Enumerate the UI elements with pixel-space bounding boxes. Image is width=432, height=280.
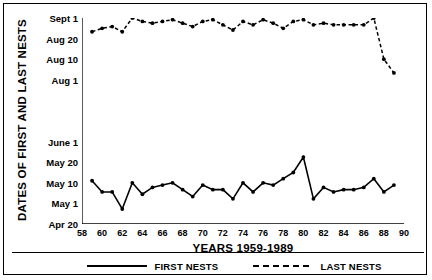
data-point [261,181,265,185]
x-tick-label: 68 [178,228,188,238]
y-axis-tick-labels: Apr 20May 1May 10May 20June 1Aug 1Aug 10… [4,18,78,224]
data-point [221,23,225,27]
data-point [322,185,326,189]
data-point [392,71,396,75]
data-point [90,179,94,183]
legend-divider [12,252,424,253]
x-tick-label: 66 [157,228,167,238]
data-point [251,190,255,194]
data-point [291,20,295,24]
y-tick-label: June 1 [48,136,78,147]
data-point [291,171,295,175]
data-point [362,185,366,189]
y-tick-label: Aug 1 [52,74,78,85]
legend-swatch-dashed [252,261,314,271]
x-tick-label: 84 [339,228,349,238]
plot-area [82,18,404,224]
y-tick-label: Sept 1 [49,13,78,24]
legend-item-first-nests: FIRST NESTS [86,261,218,272]
data-point [181,21,185,25]
data-point [161,20,165,24]
data-point [140,192,144,196]
x-tick-label: 58 [77,228,87,238]
data-point [130,18,134,20]
legend-label-last-nests: LAST NESTS [320,261,381,272]
data-point [382,190,386,194]
data-point [372,177,376,181]
x-tick-label: 74 [238,228,248,238]
x-tick-label: 72 [218,228,228,238]
data-point [181,188,185,192]
data-point [90,30,94,34]
data-point [271,21,275,25]
data-point [342,188,346,192]
x-tick-label: 64 [137,228,147,238]
data-point [312,197,316,201]
data-point [110,25,114,29]
data-point [312,23,316,27]
y-tick-label: May 10 [46,177,78,188]
x-tick-label: 70 [198,228,208,238]
y-tick-label: Aug 20 [46,33,78,44]
chart-legend: FIRST NESTS LAST NESTS [44,258,424,274]
data-point [191,25,195,29]
data-point [100,26,104,30]
x-tick-label: 82 [318,228,328,238]
chart-canvas [82,18,404,224]
data-point [171,181,175,185]
series-line-last-nests [92,18,394,73]
data-point [140,20,144,24]
data-point [130,181,134,185]
legend-item-last-nests: LAST NESTS [252,261,381,272]
data-point [120,207,124,211]
data-point [191,195,195,199]
data-point [151,21,155,25]
x-tick-label: 80 [298,228,308,238]
data-point [221,188,225,192]
data-point [281,177,285,181]
data-point [241,181,245,185]
x-tick-label: 76 [258,228,268,238]
data-point [151,185,155,189]
data-point [392,183,396,187]
data-point [241,20,245,24]
data-point [342,23,346,27]
data-point [332,190,336,194]
x-tick-label: 60 [97,228,107,238]
x-tick-label: 90 [399,228,409,238]
data-point [251,23,255,27]
x-tick-label: 78 [278,228,288,238]
data-point [201,183,205,187]
data-point [231,28,235,32]
data-point [211,188,215,192]
y-tick-label: Apr 20 [48,219,78,230]
chart-frame: DATES OF FIRST AND LAST NESTS Apr 20May … [3,3,427,275]
data-point [100,190,104,194]
legend-label-first-nests: FIRST NESTS [154,261,218,272]
data-point [352,188,356,192]
data-point [332,23,336,27]
data-point [281,26,285,30]
data-point [201,20,205,24]
x-axis-tick-labels: 5860626466687072747678808284868890 [82,228,404,242]
data-point [271,183,275,187]
y-tick-label: May 20 [46,157,78,168]
data-point [301,155,305,159]
x-tick-label: 62 [117,228,127,238]
y-tick-label: Aug 10 [46,54,78,65]
data-point [171,18,175,22]
data-point [110,190,114,194]
legend-swatch-solid [86,261,148,271]
data-point [362,23,366,27]
y-tick-label: May 1 [52,198,78,209]
data-point [352,23,356,27]
data-point [120,30,124,34]
data-point [161,183,165,187]
data-point [382,57,386,61]
x-tick-label: 86 [359,228,369,238]
data-point [231,197,235,201]
x-tick-label: 88 [379,228,389,238]
data-point [322,21,326,25]
